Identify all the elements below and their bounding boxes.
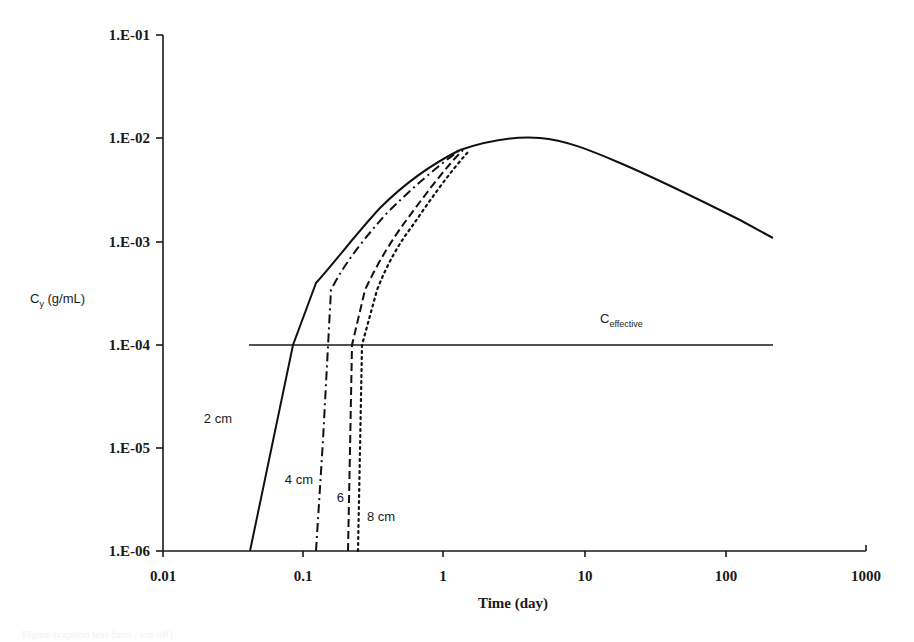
x-tick-labels: 0.01 0.1 1 10 100 1000 — [150, 568, 881, 584]
y-tick-label: 1.E-02 — [109, 130, 150, 146]
x-tick-label: 0.1 — [294, 568, 313, 584]
y-axis-title-units: (g/mL) — [44, 291, 85, 306]
c-effective-label: Ceffective — [600, 311, 643, 329]
x-axis-title: Time (day) — [478, 595, 548, 612]
y-tick-label: 1.E-01 — [109, 27, 150, 43]
x-tick-label: 1000 — [851, 568, 881, 584]
curve-label-4cm: 4 cm — [285, 472, 313, 487]
y-tick-labels: 1.E-01 1.E-02 1.E-03 1.E-04 1.E-05 1.E-0… — [109, 27, 151, 559]
curve-shared-tail — [460, 138, 773, 239]
y-axis-title-main: C — [30, 291, 39, 306]
curve-2cm — [250, 150, 460, 551]
x-tick-label: 10 — [578, 568, 593, 584]
y-tick-label: 1.E-05 — [109, 440, 150, 456]
y-tick-label: 1.E-03 — [109, 234, 150, 250]
c-effective-main: C — [600, 311, 609, 326]
x-axis — [163, 545, 866, 557]
chart-canvas: 1.E-01 1.E-02 1.E-03 1.E-04 1.E-05 1.E-0… — [0, 0, 914, 642]
curve-label-2cm: 2 cm — [204, 411, 232, 426]
curve-label-6: 6 — [337, 490, 344, 505]
figure-caption: Figure (caption text faint / cut off) — [22, 628, 173, 640]
x-tick-label: 100 — [715, 568, 738, 584]
y-tick-label: 1.E-06 — [109, 543, 151, 559]
x-tick-label: 0.01 — [150, 568, 176, 584]
x-tick-label: 1 — [439, 568, 447, 584]
c-effective-sub: effective — [609, 319, 642, 329]
y-tick-label: 1.E-04 — [109, 337, 151, 353]
curve-6cm — [348, 150, 463, 551]
y-axis-title: Cy (g/mL) — [30, 291, 85, 309]
y-axis — [156, 35, 163, 551]
curve-label-8cm: 8 cm — [367, 509, 395, 524]
